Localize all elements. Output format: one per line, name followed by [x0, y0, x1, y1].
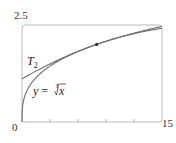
cube-root-curve [22, 26, 162, 122]
cube-root-label: y = 3 x [32, 83, 66, 99]
svg-text:x: x [58, 84, 65, 98]
y-max-label: 2.5 [14, 9, 28, 21]
t2-label: T2 [27, 54, 38, 70]
plot-frame [22, 25, 162, 122]
svg-text:y =: y = [32, 84, 48, 98]
tangent-point-marker [95, 43, 98, 46]
x-min-label: 0 [12, 121, 18, 133]
chart-canvas: 2.5 0 15 T2 y = 3 x [0, 0, 176, 143]
x-max-label: 15 [162, 117, 174, 129]
